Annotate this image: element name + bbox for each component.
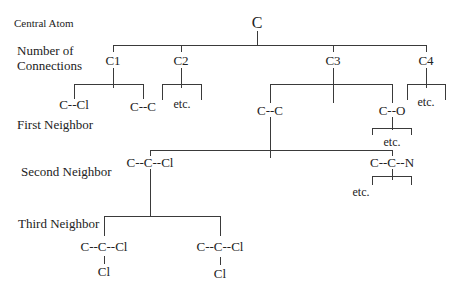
- node-c4-etc: etc.: [418, 95, 435, 109]
- node-c-cl: C--Cl: [59, 97, 89, 112]
- node-third-left: C--C--Cl: [81, 239, 128, 254]
- node-c3: C3: [325, 53, 340, 68]
- node-c-c-n-etc: etc.: [353, 185, 370, 199]
- node-c-c-cl: C--C--Cl: [127, 155, 174, 170]
- tree-svg: Central Atom Number of Connections First…: [0, 0, 460, 294]
- node-third-right: C--C--Cl: [197, 239, 244, 254]
- node-c-c-c3: C--C: [257, 103, 283, 118]
- node-c4: C4: [418, 53, 434, 68]
- atom-environment-tree-diagram: Central Atom Number of Connections First…: [0, 0, 460, 294]
- node-third-left-cl: Cl: [98, 264, 111, 279]
- node-root-c: C: [252, 14, 263, 31]
- node-c2: C2: [173, 53, 188, 68]
- node-c1: C1: [105, 53, 120, 68]
- node-c-c-c1: C--C: [130, 99, 156, 114]
- node-c-c-n: C--C--N: [370, 155, 415, 170]
- label-second-neighbor: Second Neighbor: [21, 164, 112, 179]
- label-first-neighbor: First Neighbor: [17, 117, 94, 132]
- node-c2-etc: etc.: [174, 97, 191, 111]
- label-number-of: Number of: [17, 43, 74, 58]
- label-central-atom: Central Atom: [14, 17, 74, 29]
- label-third-neighbor: Third Neighbor: [18, 216, 100, 231]
- node-c-o-etc: etc.: [384, 135, 401, 149]
- node-c-o: C--O: [379, 103, 406, 118]
- label-connections: Connections: [17, 58, 82, 73]
- node-third-right-cl: Cl: [214, 266, 227, 281]
